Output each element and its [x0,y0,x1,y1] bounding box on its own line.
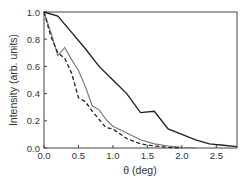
y-tick-label: 1.0 [27,7,40,18]
plot-lines [44,12,237,148]
x-axis-label: θ (deg) [123,164,156,176]
intensity-chart: 0.00.51.01.52.02.50.00.20.40.60.81.0 Int… [0,0,245,186]
series-solid-gray [44,12,196,148]
y-tick-label: 0.2 [27,115,40,126]
x-tick-label: 2.0 [175,150,188,161]
y-tick-label: 0.0 [27,143,40,154]
x-tick-label: 1.5 [141,150,154,161]
x-tick-label: 1.0 [106,150,119,161]
y-axis-label: Intensity (arb. units) [7,34,19,126]
y-tick-label: 0.8 [27,34,40,45]
x-tick-label: 0.5 [72,150,85,161]
axes: 0.00.51.01.52.02.50.00.20.40.60.81.0 [27,7,237,162]
x-tick-label: 2.5 [210,150,223,161]
y-tick-label: 0.6 [27,61,40,72]
y-tick-label: 0.4 [27,88,40,99]
